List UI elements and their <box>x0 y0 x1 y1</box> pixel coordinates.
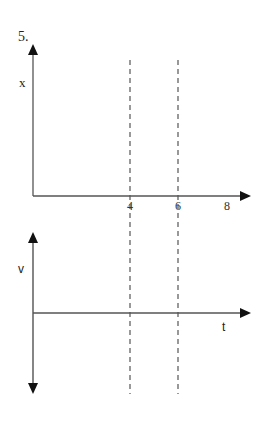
right-arrow-icon <box>240 308 251 318</box>
top-y-axis <box>28 44 38 196</box>
bottom-y-axis-label: v <box>18 263 24 275</box>
bottom-x-axis <box>33 308 251 318</box>
tick-label-6: 6 <box>175 200 181 212</box>
right-arrow-icon <box>240 191 251 201</box>
top-x-axis <box>33 191 251 201</box>
tick-label-8: 8 <box>224 200 230 212</box>
top-y-axis-label: x <box>19 76 26 89</box>
diagram-canvas <box>0 0 269 426</box>
bottom-x-axis-label: t <box>222 321 225 333</box>
down-arrow-icon <box>28 383 38 394</box>
tick-label-4: 4 <box>127 200 133 212</box>
up-arrow-icon <box>28 44 38 55</box>
problem-number: 5. <box>18 30 29 44</box>
up-arrow-icon <box>28 232 38 243</box>
